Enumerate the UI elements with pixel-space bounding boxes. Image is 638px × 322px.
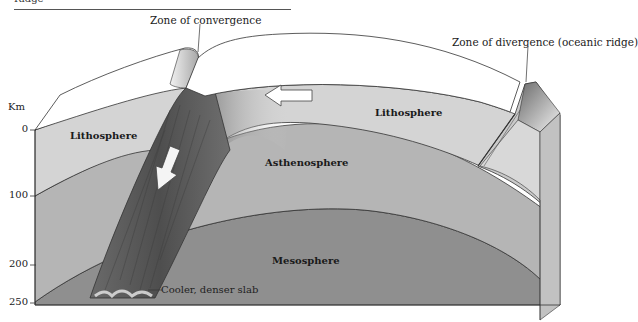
tick-0: 0 — [2, 123, 28, 134]
tick-250: 250 — [2, 296, 28, 307]
asthenosphere-label: Asthenosphere — [265, 157, 348, 168]
axis-unit-label: Km — [8, 101, 25, 112]
lithosphere-left-label: Lithosphere — [70, 130, 137, 141]
lithosphere-right-label: Lithosphere — [375, 107, 442, 118]
convergence-pointer — [198, 24, 200, 52]
zone-of-convergence-label: Zone of convergence — [150, 14, 261, 26]
cooler-denser-slab-label: Cooler, denser slab — [161, 284, 258, 295]
zone-of-divergence-label: Zone of divergence (oceanic ridge) — [452, 36, 638, 48]
mesosphere-label: Mesosphere — [272, 255, 340, 266]
divergence-pointer — [526, 46, 528, 82]
tick-200: 200 — [2, 258, 28, 269]
tick-100: 100 — [2, 189, 28, 200]
